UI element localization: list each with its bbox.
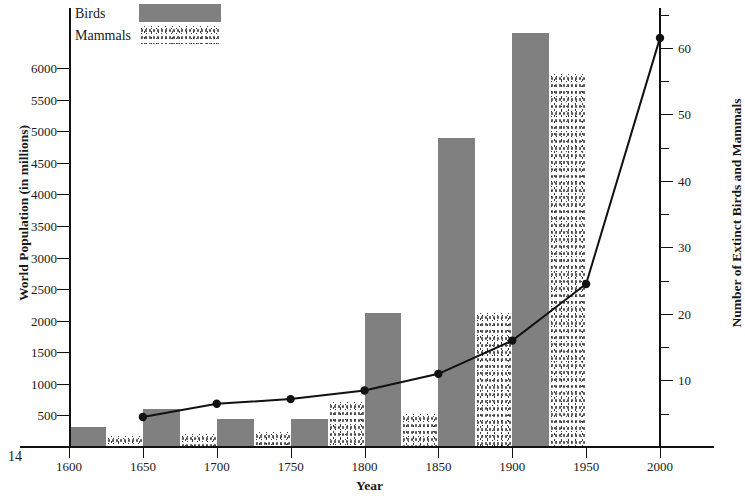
line-marker-1800: [360, 386, 368, 394]
line-path-world-population: [143, 38, 660, 417]
y-axis-right-title: Number of Extinct Birds and Mammals: [729, 88, 745, 338]
page-number: 14: [8, 449, 22, 465]
line-marker-1750: [286, 395, 294, 403]
line-marker-1950: [582, 280, 590, 288]
x-axis-title: Year: [0, 478, 739, 494]
line-marker-1700: [213, 400, 221, 408]
line-marker-1900: [508, 336, 516, 344]
line-marker-1650: [139, 413, 147, 421]
line-marker-2000: [656, 34, 664, 42]
line-marker-1850: [434, 370, 442, 378]
y-axis-left-title: World Population (in millions): [16, 103, 32, 323]
